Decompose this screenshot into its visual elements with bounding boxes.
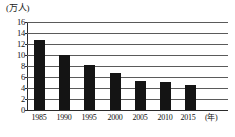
- y-tick-label-14: 14: [3, 29, 25, 37]
- gridline-12: [27, 44, 228, 45]
- y-tick-label-16: 16: [3, 18, 25, 26]
- bar-1990: [59, 55, 70, 110]
- y-tick-label-8: 8: [3, 62, 25, 70]
- x-axis-baseline: [27, 110, 228, 111]
- gridline-10: [27, 55, 228, 56]
- y-tick-label-10: 10: [3, 51, 25, 59]
- gridline-14: [27, 33, 228, 34]
- y-tick-label-12: 12: [3, 40, 25, 48]
- x-axis-unit-label: (年): [205, 113, 217, 122]
- bar-1985: [34, 40, 45, 110]
- plot-area: [27, 22, 228, 110]
- bar-2005: [135, 81, 146, 110]
- gridline-8: [27, 66, 228, 67]
- bar-2000: [110, 73, 121, 110]
- gridline-6: [27, 77, 228, 78]
- bar-2015: [185, 85, 196, 110]
- gridline-16: [27, 22, 228, 23]
- x-tick-label-2015: 2015: [171, 113, 205, 122]
- bar-chart: (万人) 16 14 12 10 8 6 4 2 0: [0, 0, 235, 137]
- y-tick-label-2: 2: [3, 95, 25, 103]
- gridline-4: [27, 88, 228, 89]
- y-tick-label-4: 4: [3, 84, 25, 92]
- y-tick-label-6: 6: [3, 73, 25, 81]
- bar-2010: [160, 82, 171, 110]
- gridline-2: [27, 99, 228, 100]
- bar-1995: [84, 65, 95, 110]
